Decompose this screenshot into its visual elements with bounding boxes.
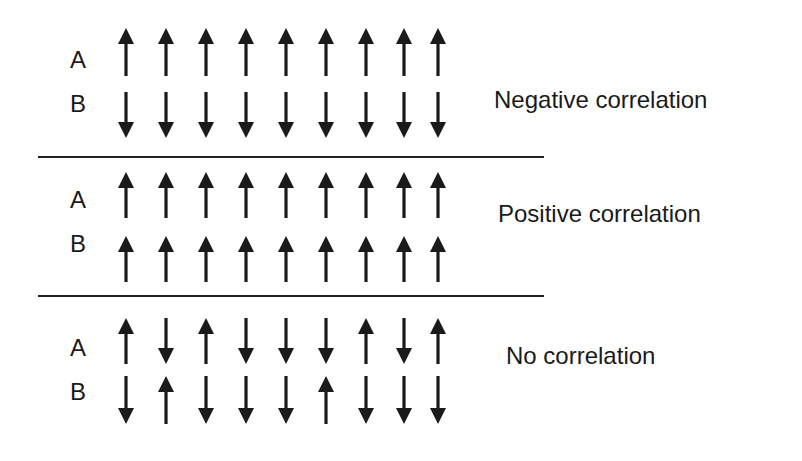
arrow-up-icon	[430, 318, 446, 364]
arrow-down-icon	[318, 318, 334, 364]
arrow-up-icon	[318, 376, 334, 424]
row-label-b: B	[70, 380, 86, 404]
section-caption: No correlation	[506, 342, 655, 370]
arrow-down-icon	[238, 318, 254, 364]
arrow-down-icon	[118, 376, 134, 424]
arrow-down-icon	[358, 376, 374, 424]
arrow-down-icon	[278, 318, 294, 364]
arrow-up-icon	[118, 318, 134, 364]
arrow-down-icon	[430, 376, 446, 424]
row-label-a: A	[70, 336, 86, 360]
arrow-up-icon	[198, 318, 214, 364]
section-no-correlation: A B No correlation	[0, 0, 802, 461]
arrow-down-icon	[238, 376, 254, 424]
arrow-down-icon	[396, 318, 412, 364]
arrow-down-icon	[198, 376, 214, 424]
arrow-up-icon	[158, 376, 174, 424]
arrow-up-icon	[358, 318, 374, 364]
arrow-down-icon	[278, 376, 294, 424]
arrow-down-icon	[396, 376, 412, 424]
arrow-down-icon	[158, 318, 174, 364]
